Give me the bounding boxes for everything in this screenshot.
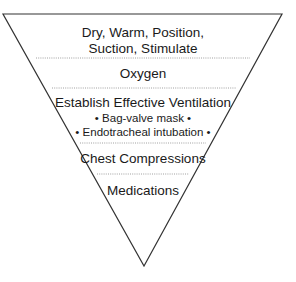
level-1-line-1: Dry, Warm, Position,: [0, 26, 286, 40]
level-5-medications: Medications: [0, 184, 286, 198]
level-3-ventilation: Establish Effective Ventilation: [0, 96, 286, 110]
level-3-endotracheal-intubation: • Endotracheal intubation •: [0, 127, 286, 139]
level-3-bag-valve-mask: • Bag-valve mask •: [0, 113, 286, 125]
level-2-oxygen: Oxygen: [0, 67, 286, 81]
level-1-line-2: Suction, Stimulate: [0, 42, 286, 56]
level-4-chest-compressions: Chest Compressions: [0, 152, 286, 166]
